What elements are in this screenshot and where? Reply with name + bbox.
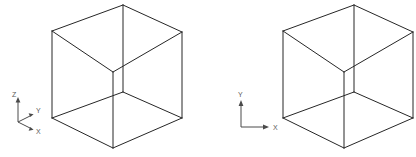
axis-y-2d-label: Y (238, 91, 243, 98)
axis-y-2d-arrowhead (239, 100, 244, 106)
figure-canvas: Z Y X Y X (0, 0, 416, 157)
axis-y-2d: Y (238, 91, 243, 127)
axis-x-2d-arrowhead (263, 125, 269, 130)
axis-x-2d: X (241, 124, 278, 131)
axis-x-2d-label: X (273, 124, 278, 131)
2d-axis-triad: Y X (0, 0, 416, 157)
